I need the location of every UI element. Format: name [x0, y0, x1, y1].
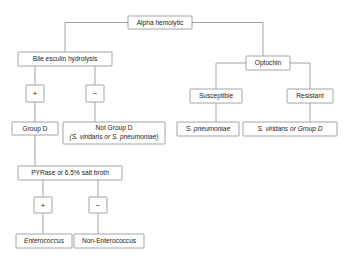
node-optochin-label: Optochin — [255, 59, 282, 67]
node-resistant-label: Resistant — [296, 92, 324, 99]
node-layer: Alpha hemolytic Bile esculin hydrolysis … — [12, 16, 337, 248]
node-susceptible-label: Susceptible — [199, 92, 233, 100]
node-enterococcus-label: Enterococcus — [24, 237, 65, 244]
edge-root-to-optochin — [192, 23, 263, 57]
node-pyrase-negative-label: − — [96, 201, 101, 210]
node-resistant[interactable]: Resistant — [287, 89, 333, 103]
node-not-group-d[interactable]: Not Group D (S. viridans or S. pneumonia… — [63, 122, 165, 144]
node-pyrase-negative[interactable]: − — [89, 197, 107, 213]
node-s-viridans-or-group-d[interactable]: S. viridans or Group D — [243, 122, 337, 136]
node-optochin[interactable]: Optochin — [246, 56, 290, 70]
flowchart-canvas: Alpha hemolytic Bile esculin hydrolysis … — [0, 0, 346, 269]
node-non-enterococcus-label: Non-Enterococcus — [82, 237, 137, 244]
node-bile-positive-label: + — [33, 89, 38, 98]
node-not-group-d-label-line2: (S. viridans or S. pneumoniae) — [69, 133, 158, 141]
node-alpha-hemolytic-label: Alpha hemolytic — [137, 19, 184, 27]
node-pyrase-salt-broth-label: PYRase or 6.5% salt broth — [31, 169, 109, 176]
node-non-enterococcus[interactable]: Non-Enterococcus — [74, 234, 144, 248]
node-bile-negative-label: − — [93, 89, 98, 98]
alpha-hemolytic-flowchart: Alpha hemolytic Bile esculin hydrolysis … — [0, 0, 346, 269]
node-s-pneumoniae-label: S. pneumoniae — [186, 125, 231, 133]
edge-optochin-to-susceptible — [216, 63, 246, 89]
node-bile-esculin-hydrolysis[interactable]: Bile esculin hydrolysis — [18, 52, 112, 66]
node-bile-positive[interactable]: + — [26, 85, 44, 102]
node-alpha-hemolytic[interactable]: Alpha hemolytic — [128, 16, 192, 29]
node-susceptible[interactable]: Susceptible — [190, 89, 242, 103]
node-group-d[interactable]: Group D — [12, 122, 58, 135]
node-pyrase-positive[interactable]: + — [34, 197, 52, 213]
node-s-viridans-or-group-d-label: S. viridans or Group D — [257, 125, 322, 133]
node-bile-negative[interactable]: − — [86, 85, 104, 102]
node-pyrase-salt-broth[interactable]: PYRase or 6.5% salt broth — [18, 166, 122, 180]
node-s-pneumoniae[interactable]: S. pneumoniae — [177, 122, 239, 136]
node-bile-esculin-hydrolysis-label: Bile esculin hydrolysis — [33, 55, 98, 63]
edge-root-to-bile — [65, 23, 128, 53]
node-not-group-d-label-line1: Not Group D — [95, 124, 132, 132]
node-enterococcus[interactable]: Enterococcus — [16, 234, 72, 248]
node-group-d-label: Group D — [23, 125, 48, 133]
edge-optochin-to-resistant — [290, 63, 310, 89]
node-pyrase-positive-label: + — [41, 201, 46, 210]
